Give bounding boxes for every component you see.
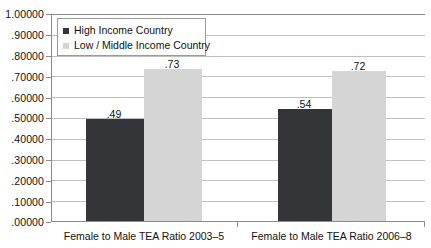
bar-chart: 1.00000 .90000 .80000 .70000 .60000 .500… [0,0,431,248]
bar-low-middle-income-2003-5 [144,69,202,221]
legend-swatch-dark-square-icon [63,28,69,34]
legend-item-label: Low / Middle Income Country [74,40,210,51]
legend-swatch-light-square-icon [63,43,69,49]
bar-value-label: .73 [143,59,201,70]
chart-legend: High Income Country Low / Middle Income … [57,18,206,56]
gridline [52,14,425,15]
y-tick-label: .00000 [0,217,44,227]
bar-value-label: .49 [85,109,143,120]
y-tick-label: .30000 [0,155,44,165]
y-tick-label: .80000 [0,51,44,61]
y-tick-label: .40000 [0,134,44,144]
y-tick-label: .70000 [0,72,44,82]
y-tick-label: .60000 [0,93,44,103]
legend-item-high-income: High Income Country [63,23,200,38]
bar-high-income-2003-5 [86,119,144,221]
legend-item-low-middle-income: Low / Middle Income Country [63,38,200,53]
legend-item-label: High Income Country [74,25,173,36]
y-tick-label: 1.00000 [0,9,44,19]
bar-value-label: .54 [277,99,331,110]
x-tick-mark [237,222,238,227]
x-category-label-2006-8: Female to Male TEA Ratio 2006–8 [238,230,425,242]
y-tick-mark [46,222,51,223]
bar-value-label: .72 [331,61,385,72]
y-tick-label: .20000 [0,176,44,186]
y-tick-label: .90000 [0,30,44,40]
x-category-label-2003-5: Female to Male TEA Ratio 2003–5 [51,230,237,242]
bar-high-income-2006-8 [278,109,332,221]
y-tick-label: .10000 [0,197,44,207]
x-tick-mark [424,222,425,227]
bar-low-middle-income-2006-8 [332,71,386,221]
y-tick-label: .50000 [0,113,44,123]
